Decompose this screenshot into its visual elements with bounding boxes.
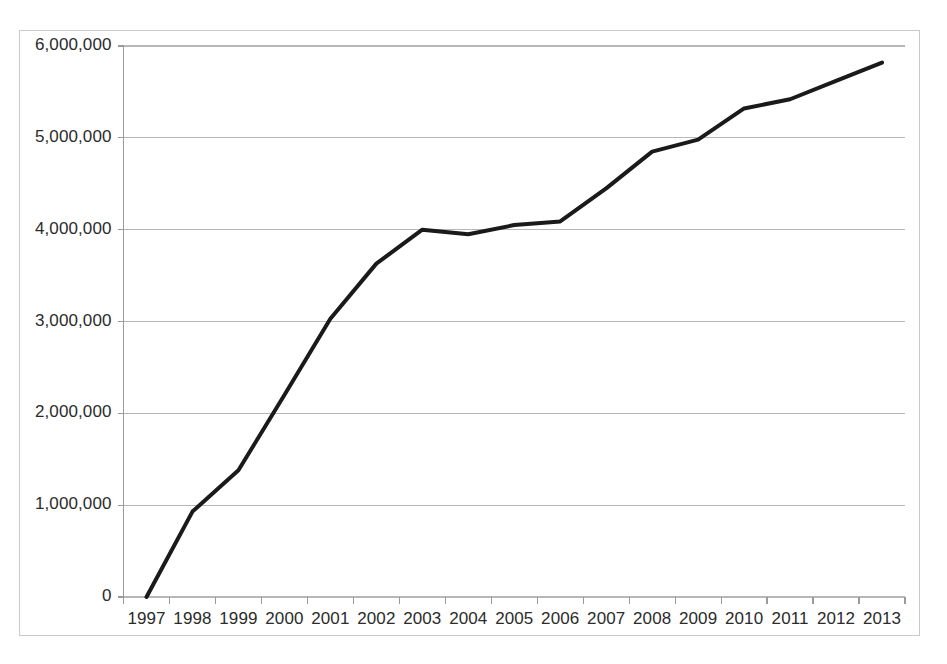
- chart-plot-svg: [0, 0, 947, 664]
- y-axis-tick-label: 0: [102, 586, 112, 606]
- ytick-marks-group: [118, 46, 124, 597]
- y-axis-tick-label: 5,000,000: [35, 127, 112, 147]
- y-axis-tick-label: 3,000,000: [35, 311, 112, 331]
- data-series-line: [146, 63, 882, 597]
- gridlines-group: [124, 46, 906, 597]
- xtick-marks-group: [124, 597, 906, 604]
- data-line-group: [146, 63, 882, 597]
- y-axis-tick-label: 6,000,000: [35, 35, 112, 55]
- y-axis-tick-label: 4,000,000: [35, 219, 112, 239]
- chart-container: 01,000,0002,000,0003,000,0004,000,0005,0…: [0, 0, 947, 664]
- y-axis-tick-label: 1,000,000: [35, 494, 112, 514]
- y-axis-tick-label: 2,000,000: [35, 402, 112, 422]
- x-axis-tick-label: 2013: [852, 609, 912, 629]
